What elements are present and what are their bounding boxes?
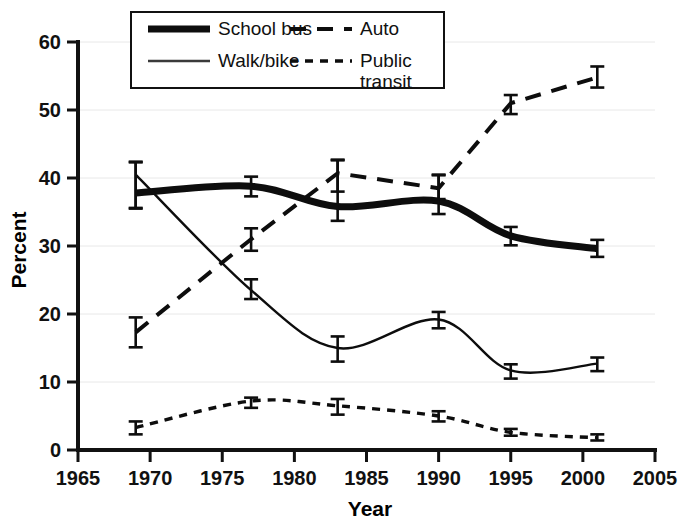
x-tick-label: 1965 — [56, 467, 101, 489]
y-axis-ticks: 0102030405060 — [39, 31, 78, 461]
series-line-public-transit — [136, 400, 598, 438]
y-tick-label: 30 — [39, 235, 61, 257]
series-line-school-bus — [136, 186, 598, 249]
x-tick-label: 2000 — [561, 467, 606, 489]
error-bar — [244, 279, 258, 299]
y-tick-label: 10 — [39, 371, 61, 393]
legend-label-walk-bike: Walk/bike — [218, 50, 300, 71]
chart-figure: 0102030405060 19651970197519801985199019… — [0, 0, 681, 523]
x-tick-label: 2005 — [633, 467, 678, 489]
chart-svg: 0102030405060 19651970197519801985199019… — [0, 0, 681, 523]
legend-label-public: Public — [360, 50, 412, 71]
error-bar — [590, 434, 604, 440]
x-tick-label: 1980 — [272, 467, 317, 489]
data-series-layer — [136, 77, 598, 437]
error-bar — [244, 228, 258, 250]
legend-label-transit: transit — [360, 71, 412, 92]
legend-label-auto: Auto — [360, 18, 399, 39]
y-tick-label: 0 — [50, 439, 61, 461]
error-bars-layer — [129, 66, 605, 440]
x-tick-label: 1970 — [128, 467, 173, 489]
y-tick-label: 60 — [39, 31, 61, 53]
error-bar — [590, 66, 604, 87]
x-tick-label: 1990 — [416, 467, 461, 489]
gridlines — [78, 42, 655, 382]
x-axis-ticks: 196519701975198019851990199520002005 — [56, 450, 678, 489]
y-axis-title: Percent — [7, 211, 30, 288]
chart-legend: School busAutoWalk/bikePublictransit — [131, 12, 444, 92]
x-tick-label: 1975 — [200, 467, 245, 489]
x-tick-label: 1995 — [489, 467, 534, 489]
x-axis-title: Year — [348, 497, 392, 520]
y-tick-label: 20 — [39, 303, 61, 325]
y-tick-label: 40 — [39, 167, 61, 189]
error-bar — [129, 317, 143, 347]
x-tick-label: 1985 — [344, 467, 389, 489]
y-tick-label: 50 — [39, 99, 61, 121]
error-bar — [129, 162, 143, 209]
